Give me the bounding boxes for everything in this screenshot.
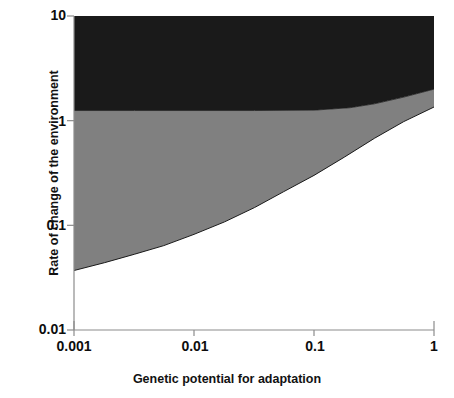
area-band-black bbox=[74, 16, 434, 111]
x-axis-ticks bbox=[74, 321, 434, 336]
y-axis-ticks bbox=[67, 16, 74, 330]
area-band-gray bbox=[74, 89, 434, 270]
chart-figure: Rate of change of the environment 10 1 0… bbox=[0, 0, 454, 398]
plot-area bbox=[0, 0, 454, 398]
